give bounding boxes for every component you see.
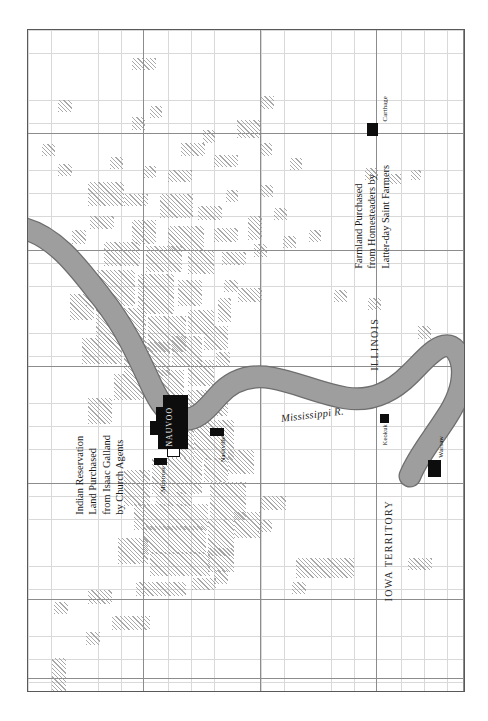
annotation-line: from Homesteaders by: [365, 165, 378, 269]
town-label-montrose: Montrose: [159, 466, 166, 492]
map-neatline-frame: NAUVOO Montrose Nashville Keokuk Warsaw …: [27, 29, 465, 692]
annotation-farmland-purchased: Farmland Purchased from Homesteaders by …: [352, 165, 392, 269]
nashville-block: [210, 428, 224, 436]
annotation-indian-reservation: Indian Reservation Land Purchased from I…: [73, 435, 127, 515]
mississippi-river-layer: [28, 30, 464, 691]
town-label-keokuk: Keokuk: [381, 424, 388, 445]
town-label-warsaw: Warsaw: [437, 436, 444, 458]
keokuk-block: [380, 414, 389, 423]
annotation-line: from Isaac Galland: [100, 435, 113, 515]
annotation-line: Land Purchased: [86, 435, 99, 515]
town-label-carthage: Carthage: [381, 96, 388, 121]
region-label-iowa-territory: IOWA TERRITORY: [383, 500, 394, 601]
annotation-line: Indian Reservation: [73, 435, 86, 515]
warsaw-block: [428, 460, 441, 477]
annotation-line: by Church Agents: [113, 435, 126, 515]
river-svg: [28, 30, 464, 691]
town-label-nashville: Nashville: [219, 436, 226, 462]
carthage-block: [367, 123, 378, 136]
map-canvas: NAUVOO Montrose Nashville Keokuk Warsaw …: [0, 0, 488, 721]
region-label-illinois: ILLINOIS: [369, 318, 380, 371]
annotation-line: Latter-day Saint Farmers: [379, 165, 392, 269]
annotation-line: Farmland Purchased: [352, 165, 365, 269]
town-label-nauvoo: NAUVOO: [165, 407, 174, 447]
montrose-block: [154, 458, 167, 465]
